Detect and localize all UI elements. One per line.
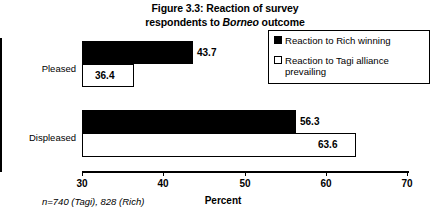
y-axis-category-labels: Pleased Displeased [0,38,76,172]
chart-title-italic-word: Borneo [223,16,259,28]
chart-title-line-2-suffix: outcome [259,16,305,28]
bar-displeased-tagi [82,133,356,157]
x-tick-label-40: 40 [157,179,168,189]
bar-value-pleased-rich: 43.7 [197,48,216,58]
chart-legend: Reaction to Rich winning Reaction to Tag… [268,30,430,84]
bar-displeased-rich [82,110,296,133]
x-tick-mark-70 [407,171,408,176]
bar-value-displeased-tagi: 63.6 [318,140,337,150]
x-tick-mark-30 [82,171,83,176]
chart-title-line-2-prefix: respondents to [145,16,222,28]
bar-pleased-rich [82,41,193,64]
category-label-displeased: Displeased [29,133,76,143]
x-tick-mark-50 [245,171,246,176]
x-tick-mark-60 [326,171,327,176]
legend-label-rich: Reaction to Rich winning [285,35,391,46]
x-tick-mark-40 [163,171,164,176]
chart-title: Figure 3.3: Reaction of survey responden… [60,2,390,29]
chart-figure: Figure 3.3: Reaction of survey responden… [0,0,446,223]
legend-entry-tagi: Reaction to Tagi alliance prevailing [274,55,424,77]
legend-label-tagi: Reaction to Tagi alliance prevailing [285,55,389,77]
bar-value-displeased-rich: 56.3 [300,117,319,127]
x-tick-label-60: 60 [320,179,331,189]
category-label-pleased: Pleased [42,64,76,74]
legend-swatch-hollow-icon [274,56,282,64]
legend-swatch-filled-icon [274,36,282,44]
bar-value-pleased-tagi: 36.4 [95,71,114,81]
chart-footnote: n=740 (Tagi), 828 (Rich) [42,197,144,207]
x-tick-label-70: 70 [401,179,412,189]
x-tick-label-30: 30 [76,179,87,189]
x-tick-label-50: 50 [239,179,250,189]
legend-entry-rich: Reaction to Rich winning [274,35,424,46]
chart-title-line-1: Figure 3.3: Reaction of survey [152,2,299,14]
